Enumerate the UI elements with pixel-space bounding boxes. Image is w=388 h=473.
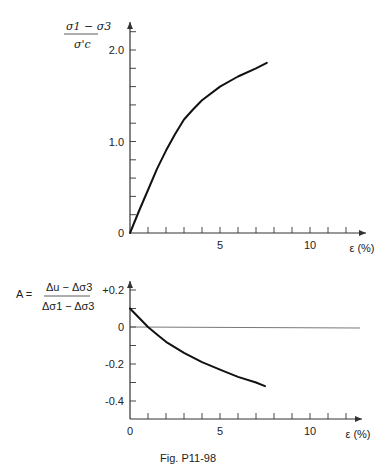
top-ylabel: σ1 − σ3 σ'c (64, 20, 111, 51)
x-tick-label: 0 (127, 425, 133, 437)
pore-pressure-chart: A = Δu − Δσ3 Δσ1 − Δσ3 0510+0.20-0.2-0.4… (16, 281, 371, 440)
top-ylabel-denominator: σ'c (74, 38, 91, 51)
data-curve (130, 63, 267, 233)
bottom-ylabel: A = Δu − Δσ3 Δσ1 − Δσ3 (16, 281, 94, 312)
bottom-ylabel-denominator: Δσ1 − Δσ3 (42, 300, 94, 312)
x-tick-label: 5 (217, 425, 223, 437)
x-axis-arrow (359, 230, 366, 236)
top-axes: 51001.02.0ε (%) (109, 22, 375, 254)
bottom-ylabel-prefix: A = (16, 288, 32, 300)
y-tick-label: 0 (118, 227, 124, 239)
bottom-curve (130, 309, 265, 387)
top-ylabel-numerator: σ1 − σ3 (66, 20, 111, 33)
data-curve (130, 309, 265, 387)
x-axis-label: ε (%) (349, 242, 374, 254)
x-axis-arrow (355, 416, 362, 422)
y-tick-label: 1.0 (109, 136, 124, 148)
y-tick-label: 0 (118, 321, 124, 333)
y-tick-label: +0.2 (102, 284, 124, 296)
figure: σ1 − σ3 σ'c 51001.02.0ε (%) A = Δu − Δσ3… (0, 0, 388, 473)
bottom-axes: 0510+0.20-0.2-0.4ε (%) (102, 281, 370, 440)
zero-reference-line (130, 327, 360, 328)
y-axis-arrow (127, 22, 133, 29)
top-curve (130, 63, 267, 233)
y-axis-arrow (127, 281, 133, 288)
bottom-ylabel-numerator: Δu − Δσ3 (46, 281, 92, 293)
figure-caption: Fig. P11-98 (160, 452, 216, 464)
y-tick-label: -0.4 (105, 395, 124, 407)
y-tick-label: 2.0 (109, 44, 124, 56)
y-tick-label: -0.2 (105, 358, 124, 370)
x-tick-label: 10 (304, 239, 316, 251)
stress-strain-chart: σ1 − σ3 σ'c 51001.02.0ε (%) (64, 20, 375, 254)
x-axis-label: ε (%) (345, 428, 370, 440)
x-tick-label: 5 (217, 239, 223, 251)
x-tick-label: 10 (304, 425, 316, 437)
